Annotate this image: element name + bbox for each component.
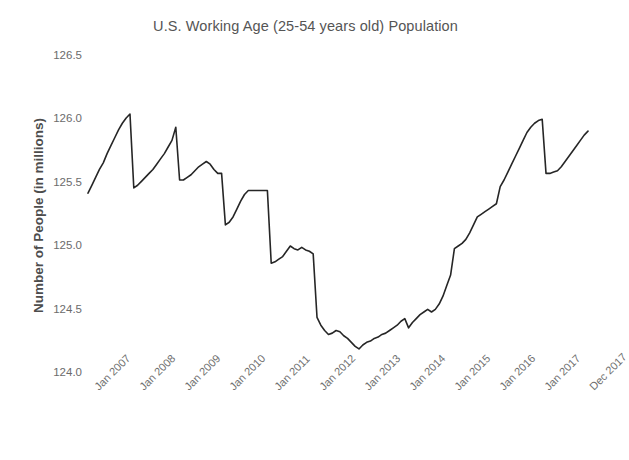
population-line-series [88, 114, 588, 349]
line-chart-svg [88, 48, 588, 378]
x-tick-label: Dec 2017 [587, 351, 629, 393]
plot-area [88, 48, 588, 378]
